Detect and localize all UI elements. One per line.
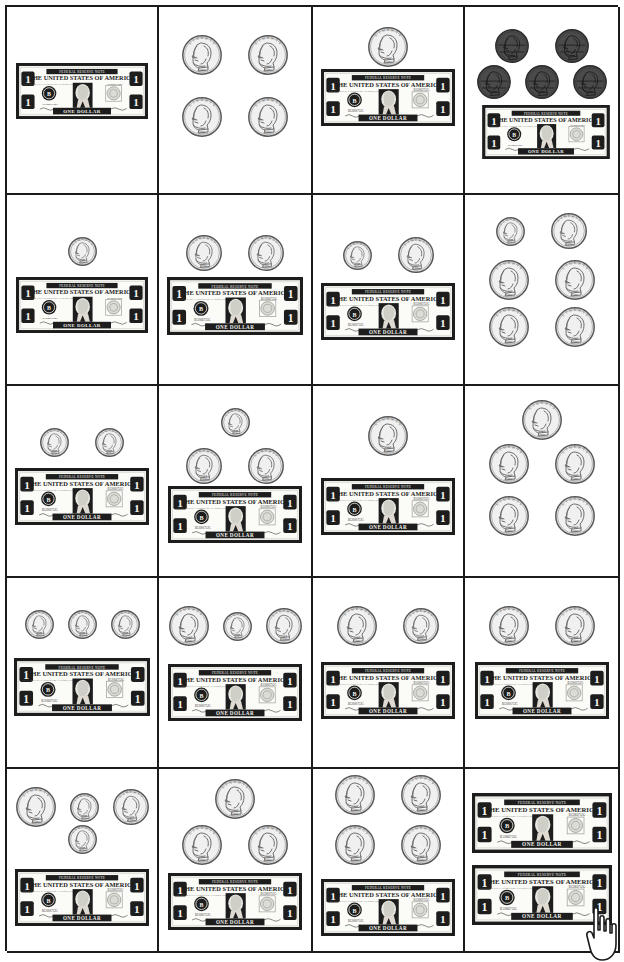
nickel-coin[interactable]: LIBERTY 1995	[248, 448, 284, 484]
quarter-coin[interactable]: LIBERTY 1995	[335, 775, 375, 815]
dollar-bill[interactable]: 1 1 1 1 FEDERAL RESERVE NOTE THE UNITED …	[16, 63, 148, 119]
quarter-coin[interactable]: LIBERTY 1995	[248, 825, 288, 865]
dollar-bill[interactable]: 1 1 1 1 FEDERAL RESERVE NOTE THE UNITED …	[167, 277, 303, 335]
quarter-coin[interactable]: LIBERTY 1995	[169, 606, 209, 646]
dime-coin[interactable]: LIBERTY 1995	[221, 408, 250, 437]
dollar-bill[interactable]: 1 1 1 1 FEDERAL RESERVE NOTE THE UNITED …	[475, 662, 609, 719]
dime-coin[interactable]: LIBERTY 1995	[343, 241, 372, 270]
quarter-coin[interactable]: LIBERTY 1995	[182, 97, 222, 137]
dime-coin[interactable]: LIBERTY 1995	[68, 237, 97, 266]
worksheet-cell[interactable]: LIBERTY 1995 LIBERTY	[159, 578, 313, 769]
quarter-coin[interactable]: LIBERTY 1995	[555, 444, 595, 484]
worksheet-cell[interactable]: LIBERTY 1995 LIBERTY	[159, 769, 313, 953]
nickel-coin[interactable]: LIBERTY 1995	[186, 448, 222, 484]
dime-coin[interactable]: LIBERTY 1995	[70, 793, 99, 822]
svg-text:THE UNITED STATES OF AMERICA: THE UNITED STATES OF AMERICA	[334, 674, 443, 681]
worksheet-cell[interactable]: LIBERTY 1995 LIBERTY	[159, 386, 313, 578]
svg-text:E: E	[38, 610, 40, 614]
quarter-coin[interactable]: LIBERTY 1995	[489, 307, 529, 347]
dollar-bill[interactable]: 1 1 1 1 FEDERAL RESERVE NOTE THE UNITED …	[321, 283, 455, 340]
dime-coin[interactable]: LIBERTY 1995	[223, 612, 252, 641]
dollar-bill[interactable]: 1 1 1 1 FEDERAL RESERVE NOTE THE UNITED …	[321, 478, 455, 535]
dime-coin[interactable]: LIBERTY 1995	[68, 610, 97, 639]
dollar-bill[interactable]: 1 1 1 1 FEDERAL RESERVE NOTE THE UNITED …	[168, 873, 302, 930]
dollar-bill[interactable]: 1 1 1 1 FEDERAL RESERVE NOTE THE UNITED …	[321, 879, 455, 936]
penny-coin[interactable]	[525, 65, 559, 99]
svg-text:E: E	[201, 97, 204, 102]
nickel-coin[interactable]: LIBERTY 1995	[551, 213, 587, 249]
quarter-coin[interactable]: LIBERTY 1995	[401, 775, 441, 815]
svg-text:B: B	[199, 515, 203, 521]
quarter-coin[interactable]: LIBERTY 1995	[248, 97, 288, 137]
quarter-coin[interactable]: LIBERTY 1995	[489, 260, 529, 300]
dollar-bill[interactable]: 1 1 1 1 FEDERAL RESERVE NOTE THE UNITED …	[168, 486, 302, 543]
dime-coin[interactable]: LIBERTY 1995	[25, 610, 54, 639]
quarter-coin[interactable]: LIBERTY 1995	[182, 825, 222, 865]
svg-text:THE UNITED STATES OF AMERICA: THE UNITED STATES OF AMERICA	[487, 674, 596, 681]
dime-coin[interactable]: LIBERTY 1995	[95, 428, 124, 457]
coin-row: LIBERTY 1995 LIBERTY	[465, 260, 618, 300]
worksheet-cell[interactable]: 1 1 1 1 FEDERAL RESERVE NOTE THE UNITED …	[465, 7, 620, 195]
worksheet-cell[interactable]: LIBERTY 1995 LIBERTY	[7, 769, 159, 953]
svg-text:THE UNITED STATES OF AMERICA: THE UNITED STATES OF AMERICA	[181, 498, 290, 505]
quarter-coin[interactable]: LIBERTY 1995	[335, 825, 375, 865]
worksheet-cell[interactable]: LIBERTY 1995 LIBERTY	[7, 578, 159, 769]
dollar-bill[interactable]: 1 1 1 1 FEDERAL RESERVE NOTE THE UNITED …	[15, 468, 149, 525]
svg-text:1995: 1995	[127, 819, 134, 823]
penny-coin[interactable]	[477, 65, 511, 99]
dime-coin[interactable]: LIBERTY 1995	[496, 217, 525, 246]
quarter-coin[interactable]: LIBERTY 1995	[215, 779, 255, 819]
quarter-coin[interactable]: LIBERTY 1995	[248, 35, 288, 75]
nickel-coin[interactable]: LIBERTY 1995	[186, 235, 222, 271]
nickel-coin[interactable]: LIBERTY 1995	[248, 235, 284, 271]
worksheet-cell[interactable]: LIBERTY 1995 LIBERTY	[159, 7, 313, 195]
worksheet-cell[interactable]: LIBERTY 1995 1 1 1 1	[313, 7, 465, 195]
dollar-bill[interactable]: 1 1 1 1 FEDERAL RESERVE NOTE THE UNITED …	[14, 658, 150, 716]
dime-coin[interactable]: LIBERTY 1995	[68, 825, 97, 854]
quarter-coin[interactable]: LIBERTY 1995	[368, 416, 408, 456]
quarter-coin[interactable]: LIBERTY 1995	[489, 496, 529, 536]
dime-coin[interactable]: LIBERTY 1995	[40, 428, 69, 457]
quarter-coin[interactable]: LIBERTY 1995	[368, 27, 408, 67]
quarter-coin[interactable]: LIBERTY 1995	[489, 606, 529, 646]
worksheet-cell[interactable]: LIBERTY 1995 1 1 1 1	[313, 386, 465, 578]
quarter-coin[interactable]: LIBERTY 1995	[555, 496, 595, 536]
svg-text:1995: 1995	[505, 294, 512, 298]
worksheet-cell[interactable]: LIBERTY 1995 LIBERTY	[313, 769, 465, 953]
svg-text:THE UNITED STATES OF AMERICA: THE UNITED STATES OF AMERICA	[495, 117, 598, 123]
dollar-bill[interactable]: 1 1 1 1 FEDERAL RESERVE NOTE THE UNITED …	[16, 277, 148, 333]
penny-coin[interactable]	[573, 65, 607, 99]
nickel-coin[interactable]: LIBERTY 1995	[398, 237, 434, 273]
quarter-coin[interactable]: LIBERTY 1995	[522, 400, 562, 440]
worksheet-cell[interactable]: LIBERTY 1995 1 1 1 1	[7, 195, 159, 386]
dollar-bill[interactable]: 1 1 1 1 FEDERAL RESERVE NOTE THE UNITED …	[15, 869, 149, 926]
dollar-bill[interactable]: 1 1 1 1 FEDERAL RESERVE NOTE THE UNITED …	[472, 793, 612, 853]
penny-coin[interactable]	[495, 29, 529, 63]
worksheet-cell[interactable]: LIBERTY 1995 LIBERTY	[465, 195, 620, 386]
worksheet-cell[interactable]: LIBERTY 1995 LIBERTY	[7, 386, 159, 578]
worksheet-cell[interactable]: LIBERTY 1995 LIBERTY	[465, 386, 620, 578]
nickel-coin[interactable]: LIBERTY 1995	[113, 789, 149, 825]
dollar-bill[interactable]: 1 1 1 1 FEDERAL RESERVE NOTE THE UNITED …	[321, 662, 455, 719]
worksheet-cell[interactable]: LIBERTY 1995 LIBERTY	[313, 578, 465, 769]
penny-coin[interactable]	[555, 29, 589, 63]
quarter-coin[interactable]: LIBERTY 1995	[489, 444, 529, 484]
quarter-coin[interactable]: LIBERTY 1995	[555, 260, 595, 300]
dollar-bill[interactable]: 1 1 1 1 FEDERAL RESERVE NOTE THE UNITED …	[168, 664, 302, 721]
svg-text:1: 1	[287, 698, 293, 710]
quarter-coin[interactable]: LIBERTY 1995	[555, 606, 595, 646]
worksheet-cell[interactable]: LIBERTY 1995 LIBERTY	[159, 195, 313, 386]
quarter-coin[interactable]: LIBERTY 1995	[337, 606, 377, 646]
quarter-coin[interactable]: LIBERTY 1995	[401, 825, 441, 865]
worksheet-cell[interactable]: 1 1 1 1 FEDERAL RESERVE NOTE THE UNITED …	[7, 7, 159, 195]
quarter-coin[interactable]: LIBERTY 1995	[182, 35, 222, 75]
worksheet-cell[interactable]: LIBERTY 1995 LIBERTY	[465, 578, 620, 769]
dollar-bill[interactable]: 1 1 1 1 FEDERAL RESERVE NOTE THE UNITED …	[321, 69, 455, 126]
dollar-bill[interactable]: 1 1 1 1 FEDERAL RESERVE NOTE THE UNITED …	[482, 105, 610, 159]
nickel-coin[interactable]: LIBERTY 1995	[403, 608, 439, 644]
quarter-coin[interactable]: LIBERTY 1995	[555, 307, 595, 347]
worksheet-cell[interactable]: LIBERTY 1995 LIBERTY	[313, 195, 465, 386]
dime-coin[interactable]: LIBERTY 1995	[111, 610, 140, 639]
quarter-coin[interactable]: LIBERTY 1995	[16, 787, 56, 827]
nickel-coin[interactable]: LIBERTY 1995	[266, 608, 302, 644]
